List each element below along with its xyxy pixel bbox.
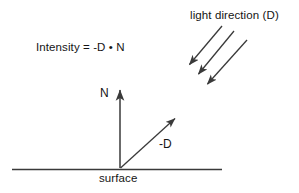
intensity-formula-label: Intensity = -D • N	[36, 41, 125, 53]
negative-light-vector-label: -D	[159, 137, 172, 151]
light-ray-arrow-2	[199, 31, 235, 74]
light-ray-arrow-3	[208, 40, 248, 84]
light-ray-arrow-1	[190, 26, 223, 65]
light-direction-label: light direction (D)	[190, 9, 279, 21]
lighting-diagram-svg: light direction (D) Intensity = -D • N N…	[0, 0, 299, 193]
surface-label: surface	[99, 172, 137, 184]
diagram-canvas: light direction (D) Intensity = -D • N N…	[0, 0, 299, 193]
normal-vector-label: N	[100, 86, 109, 100]
